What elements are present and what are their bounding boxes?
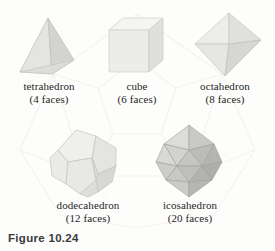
caption-dodecahedron: dodecahedron (12 faces) [36, 199, 140, 224]
solid-label-dodecahedron: dodecahedron [57, 199, 120, 211]
tetrahedron-icon [14, 16, 80, 78]
platonic-solids-figure: tetrahedron (4 faces) cube (6 faces) oct… [0, 0, 275, 251]
solid-label-cube: cube [126, 80, 147, 92]
solid-faces-tetrahedron: (4 faces) [2, 93, 96, 106]
octahedron-icon [192, 10, 264, 80]
solid-label-octahedron: octahedron [200, 80, 250, 92]
icosahedron-icon [150, 122, 228, 200]
caption-icosahedron: icosahedron (20 faces) [138, 199, 242, 224]
solid-label-icosahedron: icosahedron [163, 199, 217, 211]
figure-caption: Figure 10.24 [8, 232, 79, 244]
solid-label-tetrahedron: tetrahedron [23, 80, 74, 92]
cube-icon [106, 16, 166, 78]
solid-faces-octahedron: (8 faces) [178, 93, 272, 106]
solid-faces-icosahedron: (20 faces) [138, 212, 242, 225]
caption-cube: cube (6 faces) [90, 80, 184, 105]
solid-faces-cube: (6 faces) [90, 93, 184, 106]
solid-faces-dodecahedron: (12 faces) [36, 212, 140, 225]
caption-tetrahedron: tetrahedron (4 faces) [2, 80, 96, 105]
dodecahedron-icon [46, 124, 126, 200]
caption-octahedron: octahedron (8 faces) [178, 80, 272, 105]
